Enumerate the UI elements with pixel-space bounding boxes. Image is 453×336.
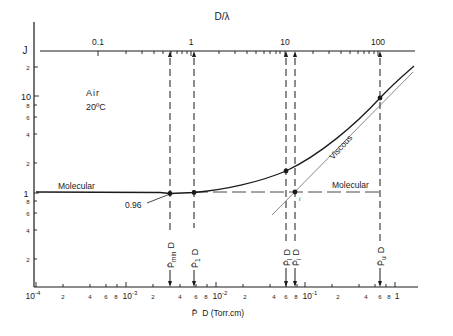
left-tick-label: 1 — [23, 189, 28, 199]
molecular-right-label: Molecular — [332, 180, 369, 190]
viscous-label: Viscous — [327, 133, 354, 162]
bottom-tick-label: 4 — [364, 294, 368, 300]
top-axis-ticks — [98, 51, 378, 56]
bottom-tick-label: 2 — [243, 294, 247, 300]
bottom-tick-label: 10-4 — [26, 290, 41, 301]
arrow-up-icon — [378, 51, 382, 57]
arrow-up-icon — [293, 51, 297, 57]
left-tick-label: 8 — [26, 103, 30, 109]
arrow-down-icon — [293, 281, 297, 287]
bottom-tick-label: 4 — [272, 294, 276, 300]
arrow-down-icon — [192, 281, 196, 287]
svg-text:P̄1D: P̄1D — [190, 248, 201, 268]
svg-text:P̄uD: P̄uD — [376, 246, 387, 266]
bottom-tick-label: 10-3 — [123, 290, 138, 301]
bottom-tick-label: 10-1 — [303, 290, 318, 301]
intersection-label: i — [299, 196, 300, 202]
marker-label-pmin: P̄minD — [166, 242, 177, 269]
left-tick-label: 6 — [26, 115, 30, 121]
point-pu — [378, 96, 383, 101]
arrow-down-icon — [284, 281, 288, 287]
bottom-tick-label: 8 — [294, 294, 298, 300]
point-pi — [293, 190, 298, 195]
medium-label: Air — [86, 88, 100, 98]
point-pmin — [168, 191, 173, 196]
arrow-down-icon — [378, 281, 382, 287]
bottom-tick-label: 2 — [151, 294, 155, 300]
top-tick-label: 0.1 — [92, 37, 104, 47]
svg-text:P̄iD: P̄iD — [291, 249, 302, 266]
svg-text:P̄minD: P̄minD — [166, 242, 177, 269]
arrow-up-icon — [192, 51, 196, 57]
min-value-leader — [147, 194, 170, 203]
bottom-axis-ticks — [36, 282, 395, 287]
left-tick-label: 8 — [26, 199, 30, 205]
flow-curve — [36, 66, 414, 194]
left-tick-label: 6 — [26, 211, 30, 217]
temperature-label: 20ºC — [86, 102, 106, 112]
arrow-down-icon — [168, 281, 172, 287]
marker-label-p1: P̄1D — [190, 248, 201, 268]
molecular-left-label: Molecular — [58, 181, 95, 191]
bottom-tick-labels: 10-4 2 4 6 8 10-3 2 4 6 8 10-2 2 4 6 8 1… — [26, 290, 400, 301]
top-axis-title: D/λ — [215, 11, 230, 22]
left-tick-label: 2 — [26, 257, 30, 263]
bottom-tick-label: 1 — [395, 291, 400, 301]
left-tick-label: 10 — [21, 92, 31, 102]
bottom-tick-label: 2 — [336, 294, 340, 300]
point-pl — [284, 169, 289, 174]
marker-label-pi: P̄iD — [291, 249, 302, 266]
left-tick-label: 4 — [26, 228, 30, 234]
marker-lines — [170, 58, 380, 245]
bottom-tick-label: 4 — [88, 294, 92, 300]
bottom-tick-label: 10-2 — [213, 290, 228, 301]
bottom-tick-label: 8 — [387, 294, 391, 300]
marker-stems — [170, 268, 380, 283]
top-tick-label: 10 — [280, 37, 290, 47]
bottom-tick-label: 6 — [194, 294, 198, 300]
top-tick-label: 1 — [189, 37, 194, 47]
bottom-axis-title: P̄ D (Torr.cm) — [192, 308, 245, 318]
bottom-tick-label: 6 — [378, 294, 382, 300]
left-tick-label: 2 — [26, 161, 30, 167]
point-p1 — [192, 190, 197, 195]
bottom-tick-label: 4 — [178, 294, 182, 300]
min-value-label: 0.96 — [125, 200, 142, 210]
bottom-tick-label: 6 — [104, 294, 108, 300]
bottom-tick-label: 8 — [114, 294, 118, 300]
flow-conductance-chart: D/λ 0.1 1 10 100 J 2 10 8 6 4 2 1 8 6 4 … — [0, 0, 453, 336]
bottom-tick-label: 2 — [61, 294, 65, 300]
axes — [34, 22, 418, 287]
marker-label-pu: P̄uD — [376, 246, 387, 266]
left-tick-label: 2 — [26, 65, 30, 71]
arrow-icons — [168, 51, 382, 287]
top-tick-label: 100 — [371, 37, 385, 47]
bottom-tick-label: 6 — [284, 294, 288, 300]
bottom-tick-label: 8 — [204, 294, 208, 300]
left-tick-label: 4 — [26, 132, 30, 138]
left-axis-ticks — [34, 67, 39, 259]
left-axis-title: J — [23, 45, 28, 56]
